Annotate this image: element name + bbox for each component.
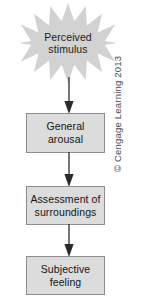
node-general-arousal: General arousal [26, 113, 105, 153]
node-label-line-1: Assessment of [30, 193, 100, 206]
node-label-line-1: General [46, 120, 84, 133]
node-perceived-stimulus: Perceived stimulus [19, 3, 117, 83]
connector-arrow-assessment-to-subjective [61, 224, 77, 257]
connector-arrow-perceived-to-arousal [61, 77, 77, 114]
node-label-line-1: Subjective [41, 263, 90, 276]
node-assessment-of-surroundings: Assessment of surroundings [26, 186, 105, 225]
node-label-line-2: surroundings [35, 206, 97, 219]
node-perceived-stimulus-label: Perceived stimulus [19, 3, 117, 83]
arrow-down-icon [61, 152, 77, 187]
node-label-line-2: feeling [50, 276, 82, 289]
copyright-notice: © Cengage Learning 2013 [111, 42, 125, 172]
node-label-line-1: Perceived [44, 31, 92, 44]
node-label-line-2: stimulus [48, 43, 87, 56]
connector-arrow-arousal-to-assessment [61, 152, 77, 187]
flow-diagram-figure: Perceived stimulus General arousal Asses… [0, 0, 141, 308]
node-subjective-feeling: Subjective feeling [26, 256, 105, 295]
arrow-down-icon [61, 224, 77, 257]
arrow-down-icon [61, 77, 77, 114]
node-label-line-2: arousal [48, 133, 83, 146]
